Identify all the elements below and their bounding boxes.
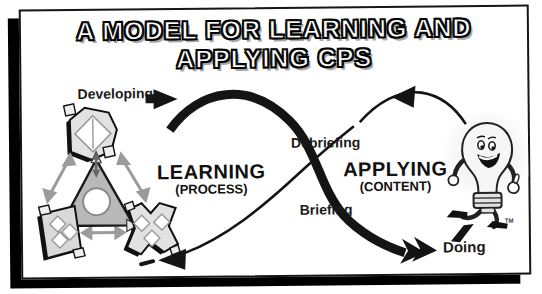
applying-loop-label: APPLYING (CONTENT) [320,157,470,194]
label-doing: Doing [443,238,486,255]
applying-title: APPLYING [320,157,470,180]
arrowhead-debriefing [391,86,415,108]
shoe-left [447,210,468,218]
learning-qualifier: (PROCESS) [126,182,296,198]
figure-frame: A MODEL FOR LEARNING AND APPLYING CPS De… [19,5,532,280]
applying-qualifier: (CONTENT) [320,179,470,194]
title-line-1: A MODEL FOR LEARNING AND [21,13,527,47]
learning-loop-label: LEARNING (PROCESS) [126,160,296,198]
title-line-2: APPLYING CPS [21,42,527,76]
label-briefing: Briefing [300,201,353,218]
label-debriefing: Debriefing [291,134,360,151]
glove-right [508,182,519,193]
flow-dash-left [141,261,153,264]
bulb-screw-base [473,193,501,213]
label-developing: Developing [77,85,153,102]
learning-title: LEARNING [126,160,296,184]
hexagon-diamond-icon [64,104,118,161]
trademark-mark: TM [505,218,514,224]
figure-title: A MODEL FOR LEARNING AND APPLYING CPS [21,13,528,76]
